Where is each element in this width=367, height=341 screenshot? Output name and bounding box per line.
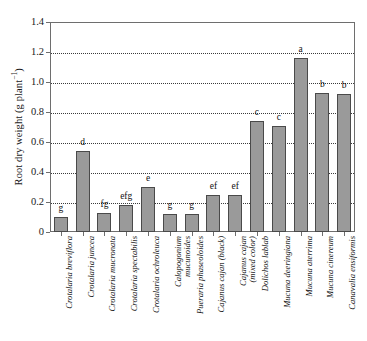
y-tick-label-1.4: 1.4 [10, 17, 44, 28]
bar-7 [206, 195, 220, 233]
x-category-label-13: Canavalia ensiformis [348, 236, 357, 340]
bar-annotation-0: g [48, 204, 74, 214]
bar-annotation-11: a [288, 45, 314, 55]
y-tick-label-0.2: 0.2 [10, 197, 44, 208]
bar-slot: ef [206, 22, 220, 232]
bar-slot: g [163, 22, 177, 232]
y-axis-title-paren: ) [13, 68, 24, 72]
y-tick-label-0.4: 0.4 [10, 167, 44, 178]
bar-annotation-4: e [135, 174, 161, 184]
bar-slot: b [315, 22, 329, 232]
y-axis-title: Root dry weight (g plant−1) [10, 32, 24, 222]
y-tick-label-1.2: 1.2 [10, 47, 44, 58]
bar-0 [54, 217, 68, 232]
x-category-label-2: Crotalaria mucronata [108, 236, 117, 340]
bar-6 [185, 214, 199, 232]
bar-13 [337, 94, 351, 232]
bar-5 [163, 214, 177, 232]
bar-slot: c [272, 22, 286, 232]
x-category-label-11: Mucuna aterrima [305, 236, 314, 340]
bar-3 [119, 205, 133, 232]
x-category-label-0: Crotalaria breviflora [65, 236, 74, 340]
y-tick-mark-0 [46, 232, 50, 233]
bar-slot: d [76, 22, 90, 232]
y-tick-label-0.8: 0.8 [10, 107, 44, 118]
x-category-label-5: Calopogoniummucunoides [174, 236, 193, 340]
bar-slot: b [337, 22, 351, 232]
x-category-label-10: Mucuna deeringiana [283, 236, 292, 340]
bar-annotation-6: g [179, 201, 205, 211]
bar-9 [250, 121, 264, 232]
bar-annotation-3: efg [113, 192, 139, 202]
bar-slot: a [294, 22, 308, 232]
bar-2 [97, 213, 111, 233]
bar-10 [272, 126, 286, 233]
bar-8 [228, 195, 242, 233]
bar-slot: ef [228, 22, 242, 232]
x-category-label-7: Cajanus cajan (black) [217, 236, 226, 340]
bar-1 [76, 151, 90, 232]
bar-slot: c [250, 22, 264, 232]
bar-annotation-10: c [266, 113, 292, 123]
x-category-label-6: Pueraria phaseoloides [196, 236, 205, 340]
bar-slot: g [185, 22, 199, 232]
bar-annotation-13: b [331, 81, 357, 91]
bar-4 [141, 187, 155, 232]
x-category-label-4: Crotalaria ochroleuca [152, 236, 161, 340]
bar-11 [294, 58, 308, 232]
x-category-label-9: Dolichos lablab [261, 236, 270, 340]
bar-12 [315, 93, 329, 233]
x-axis-category-labels: Crotalaria brevifloraCrotalaria junceaCr… [50, 236, 355, 341]
bar-annotation-1: d [70, 138, 96, 148]
bars-layer: gdfgefgeggefefccabb [50, 22, 355, 232]
bar-slot: e [141, 22, 155, 232]
x-category-label-12: Mucuna cinereum [326, 236, 335, 340]
y-tick-label-0.6: 0.6 [10, 137, 44, 148]
bar-annotation-8: ef [222, 182, 248, 192]
x-category-label-3: Crotalaria spectabilis [130, 236, 139, 340]
root-dry-weight-bar-chart: Root dry weight (g plant−1) 00.20.40.60.… [0, 0, 367, 341]
bar-slot: fg [97, 22, 111, 232]
x-category-label-8: Cajanus cajan(mixed color) [239, 236, 258, 340]
bar-slot: g [54, 22, 68, 232]
x-category-label-1: Crotalaria juncea [87, 236, 96, 340]
bar-slot: efg [119, 22, 133, 232]
y-tick-label-1.0: 1.0 [10, 77, 44, 88]
y-tick-label-0: 0 [10, 227, 44, 238]
